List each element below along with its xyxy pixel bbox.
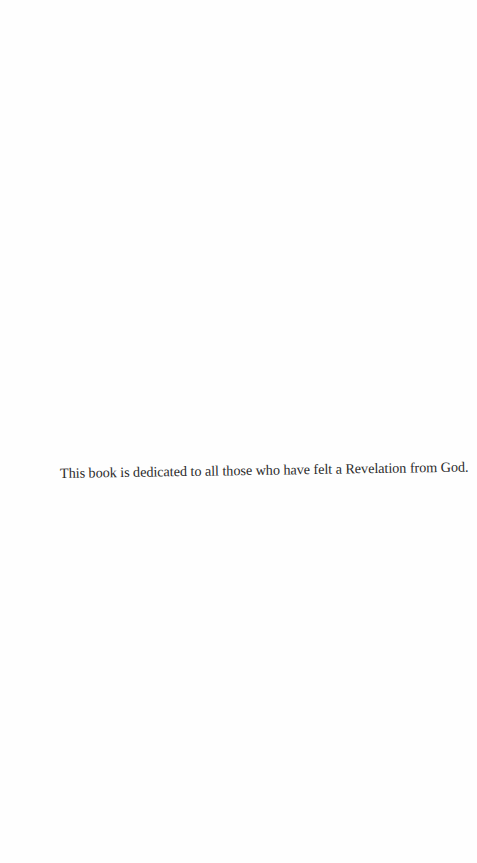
book-page: This book is dedicated to all those who … [0,0,477,863]
dedication-text: This book is dedicated to all those who … [60,458,440,482]
